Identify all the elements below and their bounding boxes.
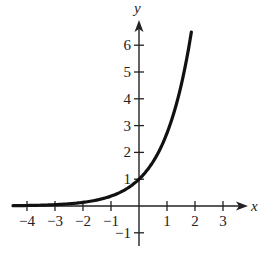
x-tick-label: −4 [19,213,35,229]
x-axis-label: x [250,198,258,214]
x-tick-label: −3 [47,213,63,229]
exponential-curve [13,32,191,206]
y-tick-label: 3 [124,118,132,134]
x-tick-label: 1 [163,213,171,229]
y-axis-label: y [132,0,141,16]
y-tick-label: 4 [124,91,132,107]
exponential-plot: −4−3−2−1123−1123456 x y [0,0,260,253]
y-tick-label: 5 [124,64,132,80]
y-tick-label: 2 [124,144,132,160]
x-tick-label: 2 [191,213,199,229]
y-tick-label: 6 [124,37,132,53]
x-tick-label: 3 [219,213,227,229]
y-tick-label: −1 [115,225,131,241]
x-tick-label: −2 [75,213,91,229]
